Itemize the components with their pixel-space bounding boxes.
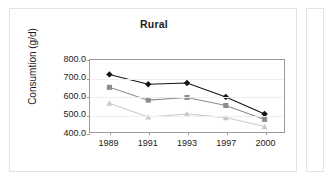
chart-panel: Rural Consumtion (g/d) 800.0700.0600.050… xyxy=(9,8,297,172)
series-lines-layer xyxy=(90,60,284,132)
gridline xyxy=(90,79,284,80)
y-axis-tick-labels: 800.0700.0600.0500.0400.0 xyxy=(48,55,86,134)
x-axis-tick-label: 1993 xyxy=(177,138,197,148)
y-axis-tick-label: 500.0 xyxy=(63,110,86,119)
y-axis-title: Consumtion (g/d) xyxy=(27,19,38,115)
x-axis-tick-mark xyxy=(188,132,189,135)
adjacent-chart-panel-edge xyxy=(306,8,324,172)
y-axis-tick-mark xyxy=(87,60,90,61)
data-point-marker xyxy=(145,81,152,87)
x-axis-tick-labels: 19891991199319972000 xyxy=(89,138,285,152)
gridline xyxy=(90,97,284,98)
y-axis-tick-label: 800.0 xyxy=(63,55,86,64)
x-axis-tick-label: 1989 xyxy=(99,138,119,148)
x-axis-tick-mark xyxy=(110,132,111,135)
data-point-marker xyxy=(146,98,151,103)
data-point-marker xyxy=(184,80,191,86)
x-axis-tick-label: 2000 xyxy=(255,138,275,148)
chart-title: Rural xyxy=(10,18,298,30)
data-point-marker xyxy=(107,85,112,90)
x-axis-tick-label: 1997 xyxy=(216,138,236,148)
data-point-marker xyxy=(262,117,267,122)
y-axis-tick-label: 600.0 xyxy=(63,92,86,101)
x-axis-tick-mark xyxy=(149,132,150,135)
y-axis-tick-mark xyxy=(87,79,90,80)
x-axis-tick-mark xyxy=(227,132,228,135)
data-point-marker xyxy=(106,71,113,77)
data-point-marker xyxy=(223,103,228,108)
gridline xyxy=(90,116,284,117)
data-point-marker xyxy=(106,100,112,105)
x-axis-tick-label: 1991 xyxy=(138,138,158,148)
plot-area xyxy=(89,59,285,133)
y-axis-tick-mark xyxy=(87,97,90,98)
y-axis-tick-mark xyxy=(87,134,90,135)
x-axis-tick-mark xyxy=(266,132,267,135)
y-axis-tick-label: 400.0 xyxy=(63,129,86,138)
y-axis-tick-label: 700.0 xyxy=(63,73,86,82)
y-axis-tick-mark xyxy=(87,116,90,117)
